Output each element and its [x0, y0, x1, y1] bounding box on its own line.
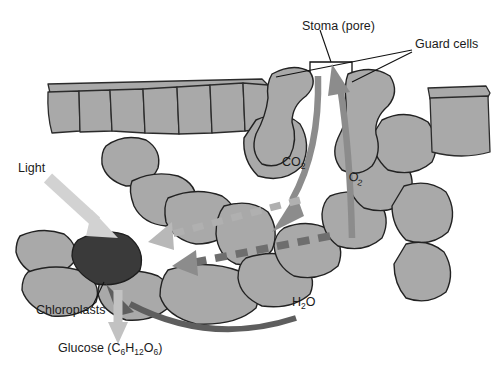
epidermis-cell: [210, 83, 245, 133]
chloroplasts-label: Chloroplasts: [36, 303, 105, 317]
mesophyll-cell: [392, 183, 453, 243]
glucose-o: O: [144, 341, 154, 355]
epidermis-cell: [110, 89, 145, 133]
epidermis-cell: [48, 91, 80, 133]
upper-epidermis: [48, 79, 272, 134]
co2-subscript: 2: [301, 161, 306, 171]
lower-right-epidermis: [428, 86, 490, 156]
epidermis-cell: [79, 90, 112, 132]
dashed-light-arrowhead: [148, 222, 174, 250]
h2o-oxygen: O: [306, 295, 316, 309]
epidermis-cell: [430, 96, 490, 156]
glucose-h: H: [125, 341, 134, 355]
light-label: Light: [18, 161, 46, 175]
epidermis-cell: [177, 85, 212, 134]
svg-text:Glucose (C6H12O6): Glucose (C6H12O6): [58, 341, 162, 357]
h2o-text: H: [292, 295, 301, 309]
guard-cells-group: [254, 67, 395, 173]
leaf-cross-section-diagram: Stoma (pore) Guard cells Light Chloropla…: [0, 0, 500, 369]
light-arrow: [48, 178, 118, 238]
guard-cells-label: Guard cells: [415, 37, 478, 51]
mesophyll-cell: [372, 114, 436, 172]
co2-text: CO: [282, 155, 301, 169]
diagram-canvas: Stoma (pore) Guard cells Light Chloropla…: [0, 0, 500, 369]
glucose-sub-h: 12: [134, 347, 144, 357]
stoma-label: Stoma (pore): [302, 19, 375, 33]
mesophyll-cell: [394, 242, 451, 301]
glucose-text: Glucose (C: [58, 341, 121, 355]
glucose-paren: ): [158, 341, 162, 355]
glucose-label: Glucose (C6H12O6): [58, 341, 162, 357]
epidermis-cell: [143, 87, 179, 134]
